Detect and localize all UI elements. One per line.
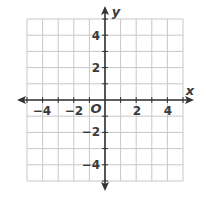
y-axis-label: y — [112, 4, 121, 19]
x-axis-label: x — [185, 83, 195, 98]
x-tick-label-4: 4 — [164, 104, 172, 118]
y-tick-label-neg2: −2 — [82, 125, 100, 139]
origin-label: O — [90, 101, 101, 116]
coordinate-plane: −4 −2 2 4 4 2 −2 −4 O x y — [0, 0, 204, 198]
y-tick-label-4: 4 — [92, 29, 100, 43]
x-tick-label-neg4: −4 — [33, 104, 51, 118]
x-tick-label-neg2: −2 — [65, 104, 83, 118]
y-tick-label-neg4: −4 — [82, 158, 100, 172]
y-tick-label-2: 2 — [92, 61, 100, 75]
x-tick-label-2: 2 — [133, 104, 141, 118]
